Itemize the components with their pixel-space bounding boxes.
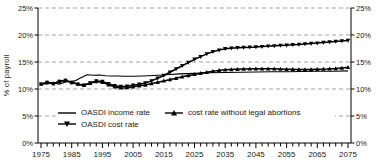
chart-plot-area: 0%0%5%5%10%10%15%15%20%20%25%25%19751985… xyxy=(0,0,382,167)
x-tick-label: 2025 xyxy=(186,150,204,159)
x-tick-label: 1985 xyxy=(63,150,81,159)
triangle-up-line-swatch-icon xyxy=(164,109,184,117)
y-tick-label-left: 25% xyxy=(18,4,33,13)
y-tick-label-right: 5% xyxy=(356,112,367,121)
y-tick-label-left: 15% xyxy=(18,58,33,67)
x-tick-label: 1995 xyxy=(94,150,112,159)
y-tick-label-right: 10% xyxy=(356,85,371,94)
chart-figure: % of payroll 0%0%5%5%10%10%15%15%20%20%2… xyxy=(0,0,382,167)
legend-row-1: OASDI income rate cost rate without lega… xyxy=(57,107,335,119)
x-tick-label: 2035 xyxy=(216,150,234,159)
legend-item-cost-without-abortions: cost rate without legal abortions xyxy=(164,107,301,119)
plain-line-swatch-icon xyxy=(57,109,77,117)
legend-item-income-rate: OASDI income rate xyxy=(57,107,150,119)
series-oasdi-cost-rate xyxy=(39,39,350,89)
y-tick-label-left: 0% xyxy=(22,139,33,148)
series-cost-rate-without-legal-abortions xyxy=(39,65,350,90)
y-tick-label-left: 20% xyxy=(18,31,33,40)
x-tick-label: 2045 xyxy=(247,150,265,159)
legend-label-income-rate: OASDI income rate xyxy=(81,107,150,119)
y-tick-label-right: 25% xyxy=(356,4,371,13)
legend: OASDI income rate cost rate without lega… xyxy=(57,107,335,130)
y-tick-label-right: 0% xyxy=(356,139,367,148)
x-tick-label: 2015 xyxy=(155,150,173,159)
y-tick-label-right: 15% xyxy=(356,58,371,67)
legend-item-cost-rate: OASDI cost rate xyxy=(57,119,139,131)
x-tick-label: 2075 xyxy=(339,150,357,159)
y-tick-label-left: 10% xyxy=(18,85,33,94)
x-tick-label: 1975 xyxy=(32,150,50,159)
legend-row-2: OASDI cost rate xyxy=(57,119,335,131)
triangle-down-line-swatch-icon xyxy=(57,120,77,128)
y-tick-label-left: 5% xyxy=(22,112,33,121)
y-tick-label-right: 20% xyxy=(356,31,371,40)
x-tick-label: 2065 xyxy=(308,150,326,159)
legend-label-cost-without-abortions: cost rate without legal abortions xyxy=(188,107,301,119)
legend-label-cost-rate: OASDI cost rate xyxy=(81,119,139,131)
x-tick-label: 2055 xyxy=(278,150,296,159)
x-tick-label: 2005 xyxy=(124,150,142,159)
